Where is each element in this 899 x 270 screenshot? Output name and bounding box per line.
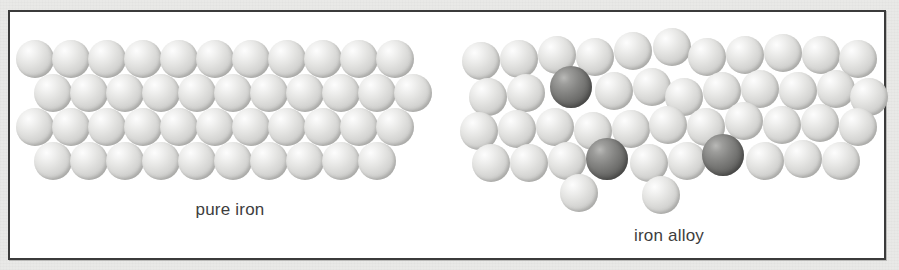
iron-atom xyxy=(34,142,72,180)
iron-atom xyxy=(358,74,396,112)
iron-atom xyxy=(142,74,180,112)
iron-atom xyxy=(124,40,162,78)
iron-atom xyxy=(16,108,54,146)
caption-pure-iron: pure iron xyxy=(10,200,450,219)
iron-atom xyxy=(142,142,180,180)
iron-atom xyxy=(52,40,90,78)
iron-atom xyxy=(322,74,360,112)
iron-atom xyxy=(196,108,234,146)
iron-atom xyxy=(286,142,324,180)
iron-atom xyxy=(178,74,216,112)
iron-atom xyxy=(70,74,108,112)
iron-atom xyxy=(232,108,270,146)
iron-atom xyxy=(304,40,342,78)
iron-atom xyxy=(268,40,306,78)
iron-atom xyxy=(763,106,801,144)
iron-atom xyxy=(250,74,288,112)
iron-atom xyxy=(472,144,510,182)
alloy-atom xyxy=(550,66,592,108)
iron-atom xyxy=(394,74,432,112)
iron-atom xyxy=(668,142,706,180)
iron-atom xyxy=(779,72,817,110)
iron-atom xyxy=(688,38,726,76)
iron-atom xyxy=(462,42,500,80)
iron-atom xyxy=(214,142,252,180)
iron-atom xyxy=(124,108,162,146)
iron-atom xyxy=(196,40,234,78)
lattice-iron-alloy xyxy=(450,12,888,258)
panel-iron-alloy: iron alloy xyxy=(450,12,888,258)
iron-atom xyxy=(16,40,54,78)
iron-atom xyxy=(106,142,144,180)
iron-atom xyxy=(160,40,198,78)
iron-atom xyxy=(498,110,536,148)
iron-atom xyxy=(801,104,839,142)
iron-atom xyxy=(160,108,198,146)
iron-atom xyxy=(726,36,764,74)
iron-atom xyxy=(784,140,822,178)
iron-atom xyxy=(268,108,306,146)
iron-atom xyxy=(214,74,252,112)
iron-atom xyxy=(469,78,507,116)
iron-atom xyxy=(839,108,877,146)
iron-atom xyxy=(500,40,538,78)
iron-atom xyxy=(649,106,687,144)
figure-frame: pure iron iron alloy xyxy=(8,10,886,260)
iron-atom xyxy=(764,34,802,72)
iron-atom xyxy=(653,28,691,66)
iron-atom xyxy=(88,40,126,78)
iron-atom xyxy=(304,108,342,146)
iron-atom xyxy=(510,144,548,182)
lattice-pure-iron xyxy=(10,12,450,258)
iron-atom xyxy=(376,40,414,78)
iron-atom xyxy=(802,36,840,74)
iron-atom xyxy=(376,108,414,146)
iron-atom xyxy=(725,102,763,140)
iron-atom xyxy=(358,142,396,180)
iron-atom xyxy=(817,70,855,108)
iron-atom xyxy=(178,142,216,180)
iron-atom xyxy=(34,74,72,112)
iron-atom xyxy=(232,40,270,78)
iron-atom xyxy=(536,108,574,146)
iron-atom xyxy=(322,142,360,180)
caption-iron-alloy: iron alloy xyxy=(450,226,888,245)
panel-pure-iron: pure iron xyxy=(10,12,450,258)
iron-atom xyxy=(286,74,324,112)
iron-atom xyxy=(614,32,652,70)
alloy-atom xyxy=(586,138,628,180)
iron-atom xyxy=(340,40,378,78)
iron-atom xyxy=(507,74,545,112)
iron-atom xyxy=(52,108,90,146)
iron-atom xyxy=(70,142,108,180)
iron-atom xyxy=(250,142,288,180)
iron-atom xyxy=(746,142,784,180)
iron-atom xyxy=(106,74,144,112)
iron-atom xyxy=(822,142,860,180)
iron-atom xyxy=(560,174,598,212)
iron-atom xyxy=(340,108,378,146)
alloy-atom xyxy=(702,134,744,176)
iron-atom xyxy=(642,176,680,214)
iron-atom xyxy=(88,108,126,146)
iron-atom xyxy=(595,72,633,110)
